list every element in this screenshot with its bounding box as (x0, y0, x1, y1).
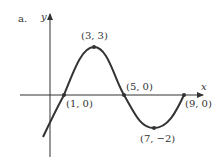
label-7-neg2: (7, −2) (140, 133, 175, 144)
curve (43, 47, 184, 137)
point-3-3 (92, 45, 96, 49)
y-axis-label: y (40, 11, 47, 22)
label-5-0: (5, 0) (126, 81, 153, 92)
x-axis-label: x (201, 81, 207, 92)
point-1-0 (62, 93, 66, 97)
label-9-0: (9, 0) (185, 98, 212, 109)
label-1-0: (1, 0) (66, 98, 93, 109)
label-3-3: (3, 3) (81, 30, 108, 41)
graph: a. y x (1, 0) (3, 3) (5, 0) (7, −2) (9, … (0, 0, 219, 158)
point-7-neg2 (152, 126, 156, 130)
point-5-0 (122, 93, 126, 97)
point-9-0 (182, 93, 186, 97)
panel-label: a. (18, 13, 27, 24)
